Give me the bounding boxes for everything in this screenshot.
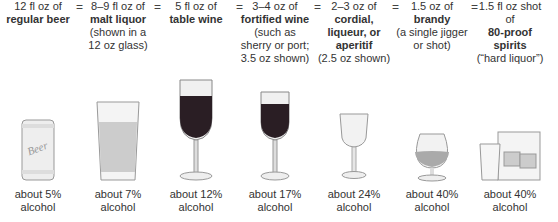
drink-description: 8–9 fl oz ofmalt liquor(shown in a12 oz … — [74, 0, 162, 52]
description-line: cordial, — [310, 13, 398, 26]
description-line: 3–4 oz of — [231, 0, 319, 13]
equals-sign: = — [154, 0, 161, 14]
percentage: about 17% — [235, 188, 315, 201]
equals-sign: = — [471, 0, 478, 14]
shot-and-rocks-glass-icon — [478, 130, 542, 186]
alcohol-percentage-label: about 40%alcohol — [470, 188, 550, 214]
description-line: liqueur, or — [310, 26, 398, 39]
unit: alcohol — [235, 201, 315, 214]
alcohol-percentage-label: about 5%alcohol — [0, 188, 78, 214]
percentage: about 24% — [314, 188, 394, 201]
description-line: 5 fl oz of — [152, 0, 240, 13]
description-line: or shot) — [388, 39, 476, 52]
description-line: spirits — [466, 39, 554, 52]
cordial-glass-icon — [338, 112, 370, 186]
description-line: aperitif — [310, 39, 398, 52]
description-line: brandy — [388, 13, 476, 26]
brandy-snifter-icon — [412, 132, 452, 186]
description-line: of — [466, 13, 554, 26]
description-line: (shown in a — [74, 26, 162, 39]
description-line: 3.5 oz shown) — [231, 52, 319, 65]
unit: alcohol — [314, 201, 394, 214]
alcohol-percentage-label: about 7%alcohol — [78, 188, 158, 214]
percentage: about 5% — [0, 188, 78, 201]
description-line: (a single jigger — [388, 26, 476, 39]
unit: alcohol — [470, 201, 550, 214]
percentage: about 12% — [156, 188, 236, 201]
alcohol-percentage-label: about 40%alcohol — [392, 188, 472, 214]
equals-sign: = — [236, 0, 243, 14]
malt-liquor-glass-icon — [95, 100, 141, 186]
percentage: about 7% — [78, 188, 158, 201]
description-line: 1.5 fl oz shot — [466, 0, 554, 13]
description-line: malt liquor — [74, 13, 162, 26]
drink-description: 1.5 fl oz shotof80-proofspirits(“hard li… — [466, 0, 554, 65]
description-line: sherry or port; — [231, 39, 319, 52]
unit: alcohol — [392, 201, 472, 214]
description-line: 8–9 fl oz of — [74, 0, 162, 13]
description-line: 2–3 oz of — [310, 0, 398, 13]
wine-glass-icon — [176, 78, 216, 186]
equals-sign: = — [314, 0, 321, 14]
alcohol-percentage-label: about 12%alcohol — [156, 188, 236, 214]
unit: alcohol — [78, 201, 158, 214]
description-line: (“hard liquor”) — [466, 52, 554, 65]
drink-description: 5 fl oz oftable wine — [152, 0, 240, 26]
description-line: table wine — [152, 13, 240, 26]
description-line: (2.5 oz shown) — [310, 52, 398, 65]
alcohol-percentage-label: about 17%alcohol — [235, 188, 315, 214]
unit: alcohol — [0, 201, 78, 214]
equals-sign: = — [76, 0, 83, 14]
unit: alcohol — [156, 201, 236, 214]
drink-description: 12 fl oz ofregular beer — [0, 0, 82, 26]
description-line: regular beer — [0, 13, 82, 26]
description-line: (such as — [231, 26, 319, 39]
alcohol-percentage-label: about 24%alcohol — [314, 188, 394, 214]
percentage: about 40% — [470, 188, 550, 201]
description-line: fortified wine — [231, 13, 319, 26]
beer-can-icon: Beer — [20, 116, 56, 186]
fortified-wine-glass-icon — [258, 90, 292, 186]
description-line: 12 fl oz of — [0, 0, 82, 13]
percentage: about 40% — [392, 188, 472, 201]
drink-description: 1.5 oz ofbrandy(a single jiggeror shot) — [388, 0, 476, 52]
description-line: 1.5 oz of — [388, 0, 476, 13]
drink-description: 2–3 oz ofcordial,liqueur, oraperitif(2.5… — [310, 0, 398, 65]
drink-description: 3–4 oz offortified wine(such assherry or… — [231, 0, 319, 65]
description-line: 12 oz glass) — [74, 39, 162, 52]
description-line: 80-proof — [466, 26, 554, 39]
equals-sign: = — [392, 0, 399, 14]
